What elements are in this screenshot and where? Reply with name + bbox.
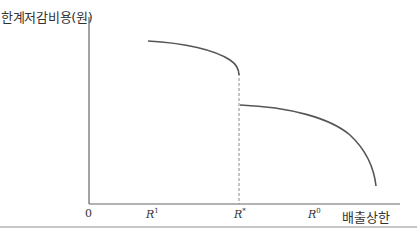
tick-r1-sup: 1: [154, 207, 158, 215]
upper-mac-curve: [148, 41, 239, 75]
tick-r0-sup: 0: [316, 207, 320, 215]
lower-mac-curve: [240, 105, 376, 186]
tick-rstar: R*: [234, 207, 246, 221]
chart-plot: [0, 0, 417, 235]
tick-r0: R0: [308, 207, 321, 221]
origin-label: 0: [85, 207, 92, 220]
x-axis-label: 배출상한: [342, 207, 390, 226]
tick-rstar-sup: *: [242, 207, 246, 215]
tick-r1: R1: [146, 207, 159, 221]
bottom-divider: [0, 226, 417, 228]
